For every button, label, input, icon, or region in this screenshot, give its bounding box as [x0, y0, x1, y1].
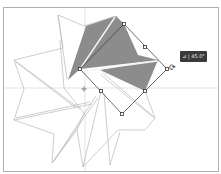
- resize-handle-bottom-right[interactable]: [144, 90, 147, 93]
- resize-handle-left[interactable]: [79, 68, 82, 71]
- rotation-angle-tooltip: ⊿ | 45.0°: [180, 51, 207, 62]
- resize-handle-top-right[interactable]: [144, 46, 147, 49]
- center-point[interactable]: [101, 45, 103, 47]
- rotation-angle-label: ⊿ | 45.0°: [182, 53, 205, 59]
- resize-handle-bottom-left[interactable]: [100, 90, 103, 93]
- rotate-cursor-icon: ⟳: [169, 64, 176, 72]
- resize-handle-bottom[interactable]: [121, 113, 124, 116]
- artboard-canvas[interactable]: [0, 0, 221, 174]
- resize-handle-top[interactable]: [123, 23, 126, 26]
